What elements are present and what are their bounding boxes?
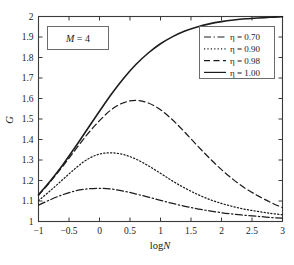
x-axis-label: logN	[150, 240, 171, 251]
x-tick-label: 1.5	[185, 226, 197, 236]
x-tick-label: 0	[97, 226, 102, 236]
y-tick-label: 2	[29, 12, 34, 22]
y-tick-label: 1.7	[22, 73, 34, 83]
annotation-box: M = 4	[48, 27, 109, 50]
annotation-equals: =	[74, 33, 85, 44]
y-tick-label: 1	[29, 217, 34, 227]
x-tick-label: −0.5	[60, 226, 77, 236]
y-tick-label: 1.4	[22, 135, 34, 145]
legend-label: η = 0.70	[230, 32, 261, 42]
x-tick-label: 0.5	[124, 226, 136, 236]
y-tick-label: 1.1	[22, 196, 34, 206]
annotation-value: 4	[85, 33, 90, 44]
legend: η = 0.70η = 0.90η = 0.98η = 1.00	[200, 27, 275, 79]
chart-figure: −1−0.500.511.522.53 11.11.21.31.41.51.61…	[0, 0, 294, 265]
legend-label: η = 0.98	[230, 56, 261, 66]
y-tick-label: 1.5	[22, 114, 34, 124]
annotation-label: M = 4	[65, 33, 90, 44]
y-tick-label: 1.6	[22, 94, 34, 104]
x-axis-tick-labels: −1−0.500.511.522.53	[33, 226, 285, 236]
y-tick-label: 1.2	[22, 176, 34, 186]
x-tick-label: 2	[219, 226, 224, 236]
x-axis-label-log: log	[150, 240, 164, 251]
legend-label: η = 0.90	[230, 44, 261, 54]
x-tick-label: 2.5	[246, 226, 258, 236]
chart-svg: −1−0.500.511.522.53 11.11.21.31.41.51.61…	[0, 0, 294, 265]
x-tick-label: 3	[280, 226, 285, 236]
x-tick-label: 1	[158, 226, 163, 236]
x-axis-label-n: N	[162, 240, 171, 251]
x-tick-label: −1	[33, 226, 43, 236]
y-tick-label: 1.9	[22, 32, 34, 42]
y-axis-label: G	[4, 116, 15, 124]
y-tick-label: 1.3	[22, 155, 34, 165]
y-tick-label: 1.8	[22, 53, 34, 63]
legend-label: η = 1.00	[230, 68, 261, 78]
